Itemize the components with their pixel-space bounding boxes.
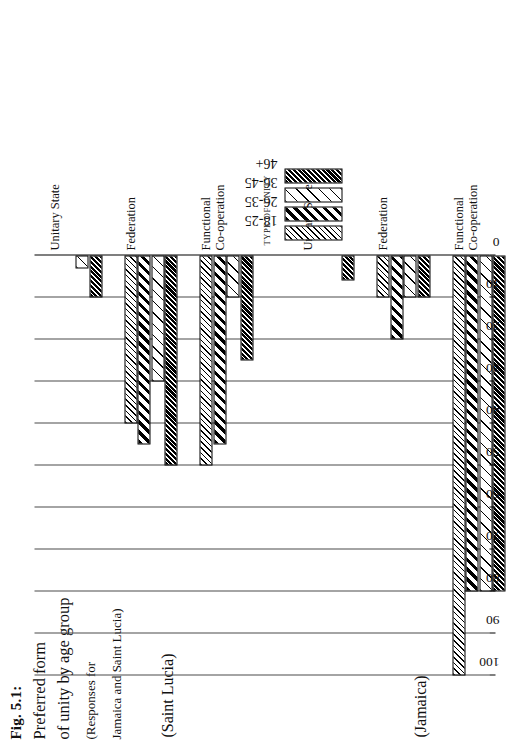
bar — [199, 255, 212, 465]
axis-tick-label-80: 80 — [486, 569, 500, 585]
bar — [465, 255, 478, 591]
bar — [226, 255, 239, 297]
axis-tick-label-100: 100 — [479, 653, 499, 669]
gridline-60 — [34, 506, 489, 507]
bar — [452, 255, 465, 675]
legend-swatch-26-35 — [284, 206, 342, 221]
axis-tick-label-60: 60 — [486, 485, 500, 501]
legend-swatch-18-25 — [284, 225, 342, 240]
rotated-page-wrapper: Fig. 5.1: Preferred form of unity by age… — [0, 0, 522, 745]
axis-tick-label-10: 10 — [486, 275, 500, 291]
axis-tick-label-20: 20 — [486, 317, 500, 333]
gridline-100 — [34, 674, 489, 675]
bar — [403, 255, 416, 297]
bar — [89, 255, 102, 297]
axis-tick-label-50: 50 — [486, 443, 500, 459]
axis-tick-label-70: 70 — [486, 527, 500, 543]
axis-tick-10 — [489, 296, 495, 297]
figure-number: Fig. 5.1: — [6, 489, 25, 739]
axis-tick-label-30: 30 — [486, 359, 500, 375]
axis-tick-30 — [489, 380, 495, 381]
gridline-50 — [34, 464, 489, 465]
axis-tick-60 — [489, 506, 495, 507]
axis-tick-50 — [489, 464, 495, 465]
bar — [164, 255, 177, 465]
gridline-90 — [34, 632, 489, 633]
gridline-20 — [34, 338, 489, 339]
axis-tick-80 — [489, 590, 495, 591]
legend-label-18-25: 18-25 — [244, 211, 277, 227]
bar — [376, 255, 389, 297]
bar — [151, 255, 164, 381]
bar — [240, 255, 253, 360]
gridline-30 — [34, 380, 489, 381]
axis-tick-label-0: 0 — [492, 233, 499, 249]
gridline-40 — [34, 422, 489, 423]
bar — [213, 255, 226, 444]
gridlines — [34, 255, 489, 675]
axis-tick-90 — [489, 632, 495, 633]
bar — [390, 255, 403, 339]
axis-tick-70 — [489, 548, 495, 549]
legend-label-36-45: 36-45 — [244, 173, 277, 189]
axis-tick-label-90: 90 — [486, 611, 500, 627]
axis-tick-20 — [489, 338, 495, 339]
bar — [417, 255, 430, 297]
bar — [124, 255, 137, 423]
gridline-70 — [34, 548, 489, 549]
gridline-80 — [34, 590, 489, 591]
legend-swatch-36-45 — [284, 187, 342, 202]
bar — [137, 255, 150, 444]
category-label: FunctionalCo-operation — [198, 186, 226, 250]
bar — [75, 255, 88, 268]
category-label: FunctionalCo-operation — [451, 186, 479, 250]
category-label: Federation — [123, 186, 137, 250]
bar — [341, 255, 354, 280]
figure: Fig. 5.1: Preferred form of unity by age… — [0, 0, 522, 745]
legend-label-26-35: 26-35 — [244, 192, 277, 208]
panel-title-jamaica: (Jamaica) — [411, 675, 429, 737]
category-label: Federation — [375, 186, 389, 250]
legend-label-46plus: 46+ — [255, 154, 277, 170]
plot-area: Unitary StateFederationFunctionalCo-oper… — [34, 255, 489, 675]
axis-tick-label-40: 40 — [486, 401, 500, 417]
axis-tick-40 — [489, 422, 495, 423]
axis-tick-0 — [489, 254, 495, 255]
axis-tick-100 — [489, 674, 495, 675]
legend-swatch-46plus — [284, 168, 342, 183]
category-label: Unitary State — [47, 186, 61, 250]
